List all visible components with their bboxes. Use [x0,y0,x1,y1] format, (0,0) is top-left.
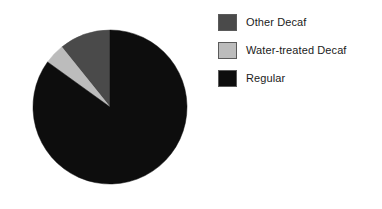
legend-item-regular[interactable]: Regular [218,69,382,87]
legend-swatch-regular [218,70,237,87]
legend-item-water-treated-decaf[interactable]: Water-treated Decaf [218,41,382,59]
legend-label-other-decaf: Other Decaf [246,16,306,29]
chart-legend: Other Decaf Water-treated Decaf Regular [218,13,382,87]
legend-label-regular: Regular [246,72,285,85]
legend-swatch-other-decaf [218,14,237,31]
legend-item-other-decaf[interactable]: Other Decaf [218,13,382,31]
legend-label-water-treated-decaf: Water-treated Decaf [246,44,347,57]
pie-plot-area [0,0,215,209]
legend-swatch-water-treated-decaf [218,42,237,59]
pie-chart-svg [0,0,215,209]
pie-chart-figure: Other Decaf Water-treated Decaf Regular [0,0,382,209]
